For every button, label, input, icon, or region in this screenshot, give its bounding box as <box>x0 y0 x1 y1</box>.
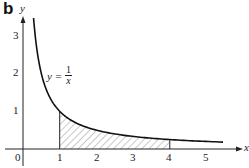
y-tick-2: 2 <box>13 67 19 78</box>
equation-denominator: x <box>66 76 70 86</box>
curve-equation-label: y = 1 x <box>47 65 72 86</box>
x-tick-4: 4 <box>166 152 172 163</box>
y-axis-label: y <box>20 3 25 14</box>
x-tick-2: 2 <box>94 152 100 163</box>
x-axis-arrow-icon <box>236 147 243 152</box>
x-tick-5: 5 <box>203 152 209 163</box>
shaded-region <box>60 111 170 149</box>
y-axis-arrow-icon <box>21 16 26 23</box>
equation-lhs: y = <box>47 70 62 82</box>
plot-area <box>0 0 249 168</box>
x-axis-label: x <box>244 142 249 153</box>
y-tick-3: 3 <box>13 30 19 41</box>
y-tick-1: 1 <box>13 105 19 116</box>
origin-label: 0 <box>15 152 21 163</box>
x-tick-1: 1 <box>57 152 63 163</box>
x-tick-3: 3 <box>130 152 136 163</box>
